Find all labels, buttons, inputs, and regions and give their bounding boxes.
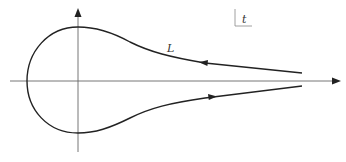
plane-indicator: t <box>235 9 252 26</box>
y-axis-arrow-icon <box>75 8 82 17</box>
contour-diagram: L t <box>0 0 346 162</box>
contour-label: L <box>166 42 174 55</box>
plane-label: t <box>242 13 247 26</box>
upper-branch-arrow-icon <box>199 60 208 66</box>
horizontal-axis <box>10 78 341 85</box>
lower-branch-arrow-icon <box>208 94 217 100</box>
vertical-axis <box>75 8 82 152</box>
x-axis-arrow-icon <box>332 78 341 85</box>
contour-L-curve <box>27 27 302 133</box>
